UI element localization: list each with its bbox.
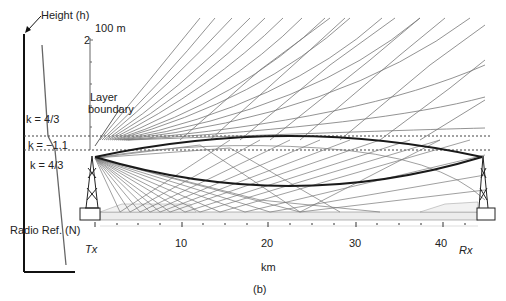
x-tick-20: 20 (261, 237, 273, 249)
tx-tower (80, 156, 100, 220)
height-scale-tick: 2 (84, 34, 90, 46)
tx-label: Tx (85, 243, 97, 255)
upward-rays (100, 18, 485, 140)
rx-tower (477, 156, 495, 220)
x-tick-10: 10 (175, 237, 187, 249)
ray-trace-diagram (0, 0, 506, 301)
height-axis-label: Height (h) (41, 9, 89, 21)
k-layer-label: k = −1.1 (28, 139, 68, 151)
height-scale-unit: 100 m (95, 22, 126, 34)
rx-label: Rx (459, 244, 472, 256)
x-tick-40: 40 (435, 237, 447, 249)
figure-caption: (b) (253, 283, 266, 295)
k-lower-label: k = 4/3 (30, 159, 63, 171)
bold-paths (95, 136, 482, 186)
layer-label-2: boundary (88, 103, 134, 115)
x-axis-label: km (261, 261, 276, 273)
k-upper-label: k = 4/3 (26, 113, 59, 125)
layer-label-1: Layer (90, 91, 118, 103)
ground (100, 202, 478, 226)
radio-ref-label: Radio Ref. (N) (10, 224, 80, 236)
trapped-rays (95, 140, 485, 212)
x-tick-30: 30 (349, 237, 361, 249)
